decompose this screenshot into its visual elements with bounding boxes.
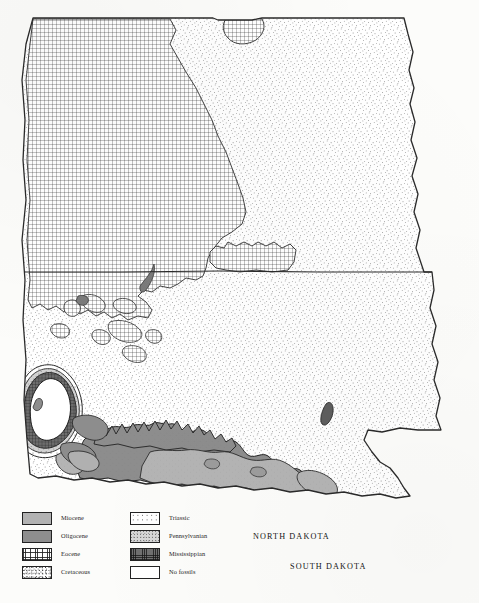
legend-label-triassic: Triassic xyxy=(169,515,190,521)
legend-label-miocene: Miocene xyxy=(61,515,84,521)
geologic-map-figure xyxy=(0,0,479,510)
map-legend: Miocene Oligocene Eocene Cretaceous Tria… xyxy=(22,510,272,582)
legend-swatch-mississippian xyxy=(130,548,160,561)
legend-column-mesozoic-paleozoic: Triassic Pennsylvanian Mississippian No … xyxy=(130,510,250,582)
legend-column-cenozoic: Miocene Oligocene Eocene Cretaceous xyxy=(22,510,130,582)
legend-item-miocene: Miocene xyxy=(22,510,130,526)
legend-item-oligocene: Oligocene xyxy=(22,528,130,544)
legend-item-triassic: Triassic xyxy=(130,510,250,526)
legend-item-cretaceous: Cretaceous xyxy=(22,564,130,580)
legend-swatch-eocene xyxy=(22,548,52,561)
unit-eocene-sliver-a xyxy=(76,295,88,305)
legend-swatch-no-fossils xyxy=(130,566,160,579)
legend-swatch-triassic xyxy=(130,512,160,525)
legend-item-no-fossils: No fossils xyxy=(130,564,250,580)
state-label-south-dakota: SOUTH DAKOTA xyxy=(290,562,366,571)
legend-label-pennsylvanian: Pennsylvanian xyxy=(169,533,207,539)
legend-swatch-oligocene xyxy=(22,530,52,543)
map-geology-layers xyxy=(0,0,479,510)
map-illustration xyxy=(0,0,479,510)
legend-label-eocene: Eocene xyxy=(61,551,80,557)
legend-label-no-fossils: No fossils xyxy=(169,569,196,575)
state-label-north-dakota: NORTH DAKOTA xyxy=(253,532,330,541)
scanned-page: Miocene Oligocene Eocene Cretaceous Tria… xyxy=(0,0,479,603)
legend-swatch-cretaceous xyxy=(22,566,52,579)
legend-item-pennsylvanian: Pennsylvanian xyxy=(130,528,250,544)
legend-item-mississippian: Mississippian xyxy=(130,546,250,562)
legend-label-cretaceous: Cretaceous xyxy=(61,569,90,575)
legend-swatch-miocene xyxy=(22,512,52,525)
legend-label-mississippian: Mississippian xyxy=(169,551,205,557)
legend-label-oligocene: Oligocene xyxy=(61,533,88,539)
legend-item-eocene: Eocene xyxy=(22,546,130,562)
legend-swatch-pennsylvanian xyxy=(130,530,160,543)
